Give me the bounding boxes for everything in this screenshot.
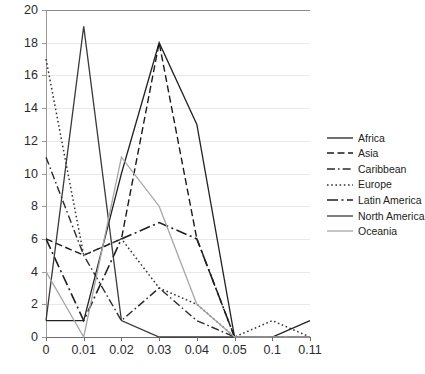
legend-item-africa[interactable]: Africa bbox=[327, 130, 408, 146]
y-tick-label: 20 bbox=[0, 3, 38, 17]
y-tick-label: 14 bbox=[0, 101, 38, 115]
legend-swatch-icon bbox=[327, 211, 353, 221]
series-line-asia bbox=[46, 43, 310, 337]
legend-label: Latin America bbox=[358, 195, 422, 206]
legend-swatch-icon bbox=[327, 164, 353, 174]
y-tick-mark bbox=[42, 10, 46, 11]
x-tick-label: 0.11 bbox=[298, 343, 321, 357]
x-tick-mark bbox=[197, 337, 198, 341]
y-tick-mark bbox=[42, 206, 46, 207]
y-tick-label: 8 bbox=[0, 199, 38, 213]
y-tick-label: 10 bbox=[0, 167, 38, 181]
legend-swatch-icon bbox=[327, 226, 353, 236]
x-tick-mark bbox=[84, 337, 85, 341]
series-line-caribbean bbox=[46, 157, 310, 337]
legend-label: North America bbox=[358, 211, 425, 222]
y-tick-mark bbox=[42, 108, 46, 109]
series-line-latin-america bbox=[46, 223, 310, 337]
x-tick-mark bbox=[235, 337, 236, 341]
x-tick-label: 0.05 bbox=[222, 343, 246, 357]
series-line-north-america bbox=[46, 26, 310, 337]
y-tick-label: 4 bbox=[0, 265, 38, 279]
y-tick-mark bbox=[42, 239, 46, 240]
x-tick-label: 0.04 bbox=[185, 343, 209, 357]
legend-swatch-icon bbox=[327, 195, 353, 205]
x-tick-label: 0.01 bbox=[72, 343, 96, 357]
x-tick-mark bbox=[272, 337, 273, 341]
x-tick-label: 0.03 bbox=[147, 343, 171, 357]
x-tick-mark bbox=[46, 337, 47, 341]
y-tick-mark bbox=[42, 272, 46, 273]
series-line-europe bbox=[46, 59, 310, 337]
y-tick-mark bbox=[42, 304, 46, 305]
y-tick-mark bbox=[42, 43, 46, 44]
legend-swatch-icon bbox=[327, 148, 353, 158]
series-line-africa bbox=[46, 43, 310, 337]
y-tick-label: 2 bbox=[0, 297, 38, 311]
y-tick-label: 18 bbox=[0, 36, 38, 50]
y-tick-label: 12 bbox=[0, 134, 38, 148]
x-tick-label: 0 bbox=[43, 343, 50, 357]
y-tick-mark bbox=[42, 174, 46, 175]
series-line-oceania bbox=[46, 157, 310, 337]
legend-label: Europe bbox=[358, 179, 392, 190]
x-tick-mark bbox=[121, 337, 122, 341]
legend-item-oceania[interactable]: Oceania bbox=[327, 224, 408, 240]
legend-item-europe[interactable]: Europe bbox=[327, 177, 408, 193]
legend-label: Caribbean bbox=[358, 164, 406, 175]
y-tick-label: 6 bbox=[0, 232, 38, 246]
y-tick-label: 16 bbox=[0, 68, 38, 82]
legend-item-asia[interactable]: Asia bbox=[327, 146, 408, 162]
y-tick-mark bbox=[42, 141, 46, 142]
legend-swatch-icon bbox=[327, 133, 353, 143]
legend-swatch-icon bbox=[327, 180, 353, 190]
x-tick-label: 0.1 bbox=[264, 343, 281, 357]
legend-item-caribbean[interactable]: Caribbean bbox=[327, 161, 408, 177]
legend-label: Oceania bbox=[358, 226, 397, 237]
x-tick-mark bbox=[310, 337, 311, 341]
y-tick-label: 0 bbox=[0, 330, 38, 344]
legend-label: Africa bbox=[358, 133, 385, 144]
chart-legend: AfricaAsiaCaribbeanEuropeLatin AmericaNo… bbox=[327, 130, 408, 239]
x-tick-mark bbox=[159, 337, 160, 341]
y-tick-mark bbox=[42, 75, 46, 76]
legend-label: Asia bbox=[358, 148, 378, 159]
x-tick-label: 0.02 bbox=[109, 343, 133, 357]
legend-item-latin-america[interactable]: Latin America bbox=[327, 192, 408, 208]
legend-item-north-america[interactable]: North America bbox=[327, 208, 408, 224]
